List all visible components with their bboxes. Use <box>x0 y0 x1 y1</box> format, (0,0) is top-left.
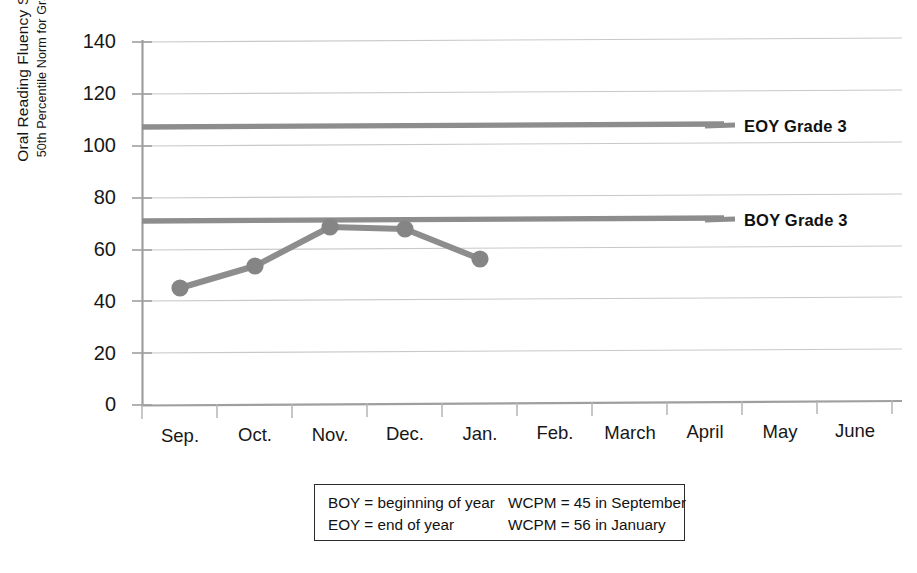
gridline-100 <box>142 142 902 146</box>
x-tick-label-sep: Sep. <box>150 427 210 446</box>
y-tick-label-120: 120 <box>56 83 116 103</box>
label-eoy-grade-3: EOY Grade 3 <box>744 117 847 136</box>
legend-note-eoy: EOY = end of year <box>328 514 508 536</box>
x-tick-label-april: April <box>675 423 735 442</box>
x-axis-line <box>141 401 902 406</box>
x-tick-label-may: May <box>750 423 810 442</box>
x-tick-label-dec: Dec. <box>375 425 435 444</box>
x-tick-label-oct: Oct. <box>225 426 285 445</box>
legend-note-wcpm-september: WCPM = 45 in September <box>508 492 683 514</box>
data-point-dec <box>396 220 413 237</box>
data-point-jan <box>471 250 488 267</box>
gridline-80 <box>142 194 902 198</box>
gridline-120 <box>142 90 902 94</box>
y-tick-label-80: 80 <box>56 187 116 207</box>
y-tick-label-40: 40 <box>56 291 116 311</box>
gridline-40 <box>142 297 902 301</box>
y-tick-label-0: 0 <box>56 394 116 414</box>
label-boy-grade-3: BOY Grade 3 <box>744 211 848 230</box>
reference-line-eoy-grade-3 <box>142 124 724 127</box>
x-tick-label-nov: Nov. <box>300 426 360 445</box>
x-tick-label-june: June <box>825 422 885 441</box>
series-markers <box>171 218 488 296</box>
x-axis-ticks <box>142 400 892 419</box>
chart-container: Oral Reading Fluency Score 50th Percenti… <box>0 0 917 573</box>
legend-note-column-left: BOY = beginning of year EOY = end of yea… <box>328 492 508 536</box>
legend-note-box: BOY = beginning of year EOY = end of yea… <box>314 484 685 541</box>
x-tick-label-march: March <box>600 424 660 443</box>
y-tick-label-140: 140 <box>56 31 116 51</box>
gridlines <box>142 38 902 353</box>
reference-line-boy-grade-3 <box>142 218 724 221</box>
legend-note-column-right: WCPM = 45 in September WCPM = 56 in Janu… <box>508 492 683 536</box>
y-tick-label-100: 100 <box>56 135 116 155</box>
gridline-60 <box>142 246 902 250</box>
x-tick-label-feb: Feb. <box>525 424 585 443</box>
data-point-sep <box>171 279 188 296</box>
legend-swatch-eoy <box>705 125 735 126</box>
y-tick-label-60: 60 <box>56 239 116 259</box>
gridline-20 <box>142 349 902 353</box>
legend-note-boy: BOY = beginning of year <box>328 492 508 514</box>
legend-swatch-boy <box>705 219 735 220</box>
x-tick-label-jan: Jan. <box>450 425 510 444</box>
legend-note-wcpm-january: WCPM = 56 in January <box>508 514 683 536</box>
y-tick-label-20: 20 <box>56 343 116 363</box>
series-line-student-progress <box>180 227 480 288</box>
data-point-nov <box>321 218 338 235</box>
data-point-oct <box>246 257 263 274</box>
gridline-140 <box>142 38 902 42</box>
